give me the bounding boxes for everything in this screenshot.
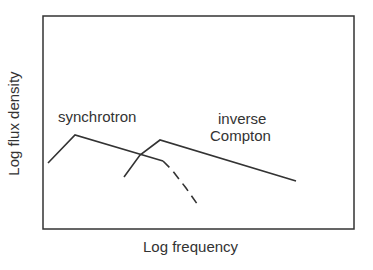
x-axis-label: Log frequency	[143, 238, 238, 255]
synchrotron-label: synchrotron	[58, 108, 136, 125]
y-axis-label: Log flux density	[5, 59, 22, 189]
diagram-canvas	[0, 0, 373, 270]
synchrotron-cutoff-dashed	[163, 161, 200, 208]
inverse-label: inverse	[218, 110, 266, 127]
inverse-compton-curve	[124, 140, 296, 181]
synchrotron-curve	[48, 135, 163, 163]
compton-label: Compton	[210, 127, 271, 144]
